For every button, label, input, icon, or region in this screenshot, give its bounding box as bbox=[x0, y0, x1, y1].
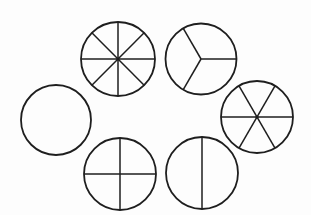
circle-thirds-group bbox=[166, 24, 237, 95]
circle-sixths-group bbox=[221, 81, 293, 153]
circles-group bbox=[21, 22, 293, 210]
fraction-circles-diagram bbox=[0, 0, 311, 215]
circle-fourths-group bbox=[84, 138, 156, 210]
circle-eighths-group bbox=[81, 22, 155, 96]
circle-halves-group bbox=[166, 137, 238, 209]
circle-outline bbox=[21, 85, 91, 155]
circle-whole-group bbox=[21, 85, 91, 155]
center-dot bbox=[255, 115, 258, 118]
center-dot bbox=[116, 57, 119, 60]
divider-line bbox=[183, 59, 201, 90]
divider-line bbox=[183, 28, 201, 59]
